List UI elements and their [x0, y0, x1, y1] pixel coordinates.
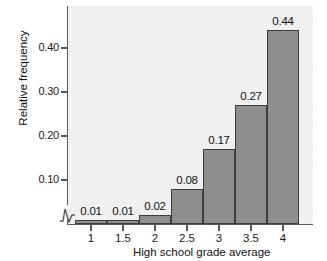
x-tick-mark	[282, 225, 283, 231]
bar	[267, 30, 299, 224]
y-tick-mark	[61, 179, 68, 180]
y-axis-line	[67, 6, 68, 205]
bar	[139, 215, 171, 224]
y-axis-title: Relative frequency	[17, 3, 29, 153]
x-tick-mark	[250, 225, 251, 231]
bar	[75, 220, 107, 224]
y-tick-mark	[61, 135, 68, 136]
bar-value-label: 0.44	[261, 15, 305, 27]
y-tick-mark	[61, 47, 68, 48]
bar	[235, 105, 267, 224]
x-tick-label: 4	[263, 232, 303, 244]
y-tick-label: 0.10	[19, 173, 59, 185]
x-tick-mark	[186, 225, 187, 231]
bar	[171, 189, 203, 224]
bar	[203, 149, 235, 224]
x-axis-title: High school grade average	[133, 246, 270, 258]
x-tick-mark	[154, 225, 155, 231]
x-tick-mark	[122, 225, 123, 231]
histogram-figure: 0.100.200.300.40 11.522.533.54 0.010.010…	[0, 0, 327, 261]
bar	[107, 220, 139, 224]
x-tick-mark	[90, 225, 91, 231]
y-tick-mark	[61, 91, 68, 92]
x-axis-line	[67, 224, 313, 225]
x-tick-mark	[218, 225, 219, 231]
